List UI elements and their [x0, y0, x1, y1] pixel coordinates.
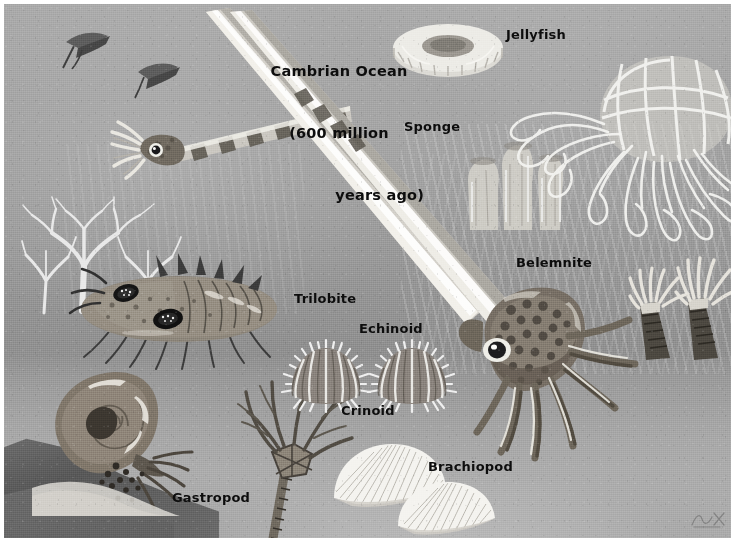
title-line-3: years ago): [246, 185, 432, 206]
label-jellyfish: Jellyfish: [506, 26, 566, 44]
label-trilobite: Trilobite: [294, 290, 356, 308]
illustration-plate: Cambrian Ocean (600 million years ago) J…: [4, 4, 731, 538]
artist-signature: [690, 509, 730, 531]
label-echinoid: Echinoid: [359, 320, 423, 338]
label-belemnite: Belemnite: [516, 254, 592, 272]
label-gastropod: Gastropod: [172, 489, 250, 507]
label-brachiopod: Brachiopod: [428, 458, 513, 476]
illustration-scene: Cambrian Ocean (600 million years ago) J…: [0, 0, 735, 542]
label-sponge: Sponge: [404, 118, 460, 136]
label-crinoid: Crinoid: [341, 402, 395, 420]
title-line-1: Cambrian Ocean: [246, 61, 432, 82]
